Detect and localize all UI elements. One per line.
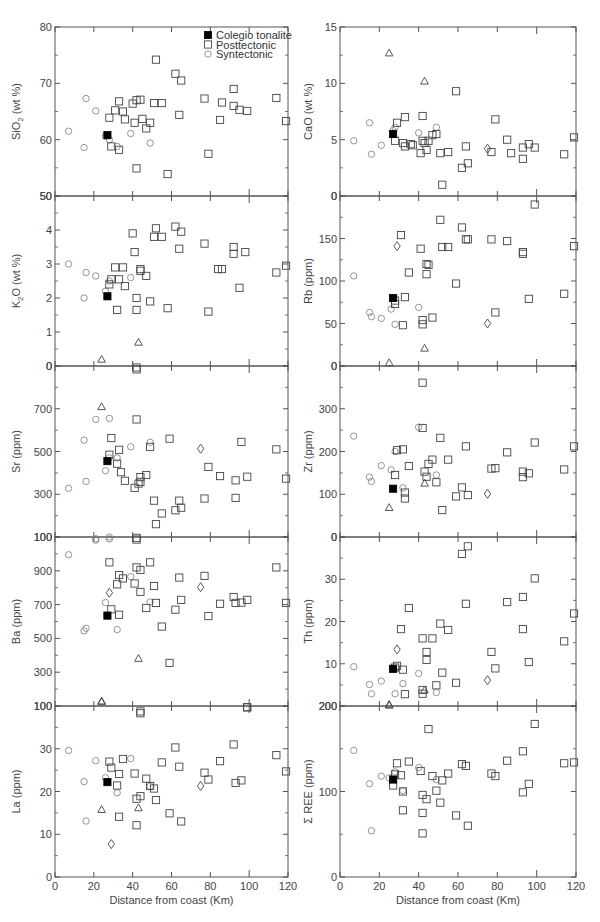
data-point-open-square (152, 521, 159, 528)
data-point-open-circle (433, 124, 439, 130)
plot-frame (340, 706, 576, 877)
data-point-open-circle (65, 261, 71, 267)
data-point-open-square (244, 704, 251, 711)
data-point-open-square (525, 295, 532, 302)
data-point-open-square (201, 572, 208, 579)
data-point-open-square (244, 107, 251, 114)
data-point-open-triangle (98, 806, 106, 813)
data-point-open-square (458, 224, 465, 231)
data-point-open-square (462, 143, 469, 150)
data-point-open-square (464, 822, 471, 829)
data-point-open-square (519, 626, 526, 633)
series-posttectonic (106, 704, 290, 829)
data-point-open-square (115, 276, 122, 283)
data-point-open-square (437, 620, 444, 627)
data-point-open-square (405, 604, 412, 611)
data-point-open-circle (351, 138, 357, 144)
data-point-open-circle (400, 485, 406, 491)
data-point-open-square (176, 111, 183, 118)
plot-frame (55, 706, 288, 877)
data-point-open-square (176, 574, 183, 581)
data-point-open-square (519, 748, 526, 755)
y-tick-label: 900 (34, 565, 52, 577)
data-point-open-square (504, 598, 511, 605)
y-tick-label: 0 (331, 190, 337, 202)
data-point-open-square (204, 41, 211, 48)
data-point-filled-square (104, 778, 111, 785)
data-point-open-square (121, 477, 128, 484)
data-point-open-square (437, 434, 444, 441)
data-point-open-square (121, 116, 128, 123)
x-tick-label: 0 (52, 880, 58, 892)
data-point-open-square (437, 150, 444, 157)
data-point-open-square (273, 752, 280, 759)
legend: Colegio tonalitePosttectonicSyntectonic (204, 29, 291, 60)
data-point-open-square (488, 648, 495, 655)
data-point-open-square (115, 813, 122, 820)
data-point-open-circle (378, 315, 384, 321)
data-point-open-square (242, 249, 249, 256)
data-point-open-square (137, 266, 144, 273)
y-axis-label: CaO (wt %) (302, 83, 314, 140)
series-syntectonic (351, 747, 440, 834)
plot-frame (340, 366, 576, 537)
data-point-open-circle (81, 437, 87, 443)
data-point-open-square (399, 322, 406, 329)
data-point-open-square (158, 623, 165, 630)
data-point-open-triangle (385, 49, 393, 56)
data-point-open-circle (83, 818, 89, 824)
data-point-open-circle (368, 691, 374, 697)
x-tick-label: 120 (279, 880, 297, 892)
data-point-open-circle (147, 140, 153, 146)
data-point-open-square (282, 768, 289, 775)
data-point-open-square (150, 582, 157, 589)
y-axis-label: Sr (ppm) (10, 430, 22, 473)
data-point-open-circle (128, 444, 134, 450)
data-point-open-square (158, 99, 165, 106)
data-point-open-circle (93, 416, 99, 422)
data-point-filled-square (390, 294, 397, 301)
data-point-open-square (143, 604, 150, 611)
data-point-open-circle (65, 128, 71, 134)
y-tick-label: 50 (40, 190, 52, 202)
data-point-open-square (421, 468, 428, 475)
data-point-open-square (201, 769, 208, 776)
data-point-open-circle (102, 468, 108, 474)
data-point-open-circle (368, 151, 374, 157)
data-point-open-square (508, 150, 515, 157)
plot-frame (55, 537, 288, 706)
data-point-open-square (216, 116, 223, 123)
data-point-open-square (439, 669, 446, 676)
data-point-open-circle (81, 295, 87, 301)
data-point-open-square (561, 151, 568, 158)
data-point-open-square (216, 600, 223, 607)
data-point-open-square (119, 108, 126, 115)
data-point-open-circle (93, 108, 99, 114)
data-point-open-square (504, 449, 511, 456)
data-point-open-square (423, 473, 430, 480)
y-tick-label: 30 (40, 743, 52, 755)
data-point-open-square (114, 782, 121, 789)
data-point-open-square (152, 56, 159, 63)
data-point-open-circle (114, 626, 120, 632)
data-point-open-square (158, 233, 165, 240)
panel-th: 0302010200Th (ppm) (302, 531, 578, 712)
series-posttectonic (391, 88, 577, 189)
data-point-open-square (570, 610, 577, 617)
data-point-open-square (425, 725, 432, 732)
series-diamond (394, 242, 491, 328)
data-point-open-circle (81, 778, 87, 784)
data-point-filled-square (204, 31, 211, 38)
data-point-open-square (230, 85, 237, 92)
data-point-open-circle (433, 472, 439, 478)
data-point-open-square (178, 596, 185, 603)
data-point-open-square (150, 99, 157, 106)
data-point-open-circle (368, 828, 374, 834)
data-point-open-square (176, 497, 183, 504)
data-point-open-square (492, 665, 499, 672)
series-syntectonic (351, 424, 440, 491)
data-point-open-square (445, 148, 452, 155)
data-point-open-square (401, 294, 408, 301)
series-colegio-tonalite (104, 132, 111, 139)
data-point-open-square (391, 137, 398, 144)
